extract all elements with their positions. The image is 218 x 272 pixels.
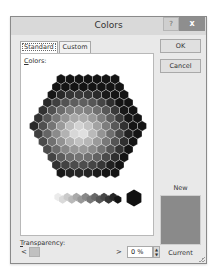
- help-button[interactable]: ?: [163, 17, 179, 31]
- close-icon: x: [189, 19, 194, 28]
- new-color-label: New: [160, 184, 201, 192]
- tab-standard[interactable]: Standard: [20, 41, 58, 53]
- ok-button[interactable]: OK: [160, 39, 201, 53]
- colors-dialog: Colors ? x Standard Custom Colors: OK Ca…: [10, 16, 207, 264]
- current-color-label: Current: [160, 249, 201, 257]
- standard-panel: Colors:: [20, 53, 154, 236]
- slider-right-arrow-icon[interactable]: >: [116, 248, 122, 256]
- slider-left-arrow-icon[interactable]: <: [21, 248, 27, 256]
- title-bar[interactable]: Colors ? x: [11, 17, 206, 35]
- cancel-button[interactable]: Cancel: [160, 59, 201, 73]
- transparency-slider-thumb[interactable]: [29, 247, 40, 257]
- color-preview-swatch: [160, 195, 201, 245]
- resize-grip-icon[interactable]: [199, 256, 205, 262]
- tab-custom[interactable]: Custom: [59, 41, 92, 53]
- close-button[interactable]: x: [179, 17, 205, 31]
- transparency-spinner[interactable]: ▲▼: [153, 246, 160, 258]
- tab-strip: Standard Custom: [20, 41, 92, 53]
- help-icon: ?: [169, 20, 173, 28]
- spin-down-icon[interactable]: ▼: [154, 252, 159, 257]
- color-hexagon-palette[interactable]: [21, 54, 155, 237]
- transparency-label: Transparency:: [20, 239, 65, 247]
- transparency-percent-input[interactable]: 0 %: [127, 246, 153, 258]
